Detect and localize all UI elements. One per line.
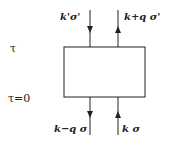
arrow-up-icon (115, 26, 121, 33)
vertex-box (64, 47, 145, 97)
leg-label-bottom-right: k σ (122, 124, 140, 134)
leg-label-bottom-left: k−q σ (54, 124, 87, 134)
leg-label-top-left: k'σ' (60, 12, 80, 22)
time-label-tau: τ (10, 43, 16, 54)
time-label-zero: τ=0 (8, 93, 30, 104)
arrow-down-icon (87, 26, 93, 33)
arrow-down-icon (87, 111, 93, 118)
arrow-up-icon (115, 111, 121, 118)
leg-label-top-right: k+q σ' (124, 12, 160, 22)
